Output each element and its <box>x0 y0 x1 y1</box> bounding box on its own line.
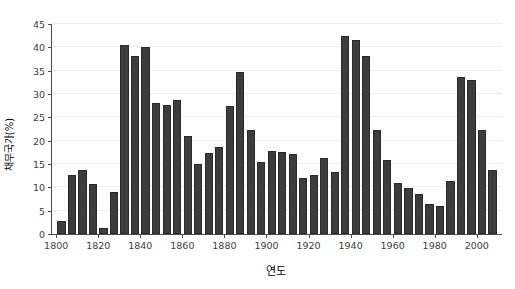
bar <box>352 40 360 234</box>
chart-figure: 채무국가(%) 051015202530354045 1800182018401… <box>0 0 515 289</box>
x-tick-mark <box>435 234 436 238</box>
bar <box>78 170 86 234</box>
y-tick-mark <box>48 164 52 165</box>
bar <box>415 194 423 234</box>
y-tick-mark <box>48 234 52 235</box>
bar <box>120 45 128 234</box>
bar <box>57 221 65 234</box>
bar <box>184 136 192 234</box>
y-tick-label: 40 <box>33 42 45 53</box>
y-tick-label: 45 <box>33 19 45 30</box>
x-tick-label: 1860 <box>170 240 194 251</box>
bar <box>457 77 465 234</box>
bar <box>205 153 213 234</box>
y-axis-title: 채무국가(%) <box>0 0 16 289</box>
bar <box>163 105 171 234</box>
x-tick-mark <box>266 234 267 238</box>
y-tick-label: 10 <box>33 182 45 193</box>
plot-area: 051015202530354045 180018201840186018801… <box>51 24 502 235</box>
x-tick-label: 1940 <box>339 240 363 251</box>
x-tick-mark <box>140 234 141 238</box>
bar <box>467 80 475 234</box>
y-tick-mark <box>48 24 52 25</box>
y-tick-label: 5 <box>39 205 45 216</box>
y-tick-mark <box>48 94 52 95</box>
bar <box>341 36 349 234</box>
bar <box>373 130 381 234</box>
x-tick-label: 1900 <box>254 240 278 251</box>
x-tick-mark <box>98 234 99 238</box>
x-axis-title: 연도 <box>51 262 501 278</box>
bar <box>89 184 97 234</box>
bar <box>478 130 486 234</box>
x-tick-label: 1920 <box>296 240 320 251</box>
x-tick-mark <box>182 234 183 238</box>
gridline <box>52 23 502 24</box>
y-tick-label: 20 <box>33 135 45 146</box>
y-tick-mark <box>48 47 52 48</box>
y-tick-label: 30 <box>33 89 45 100</box>
y-tick-mark <box>48 71 52 72</box>
bar <box>488 170 496 234</box>
x-tick-mark <box>351 234 352 238</box>
bar <box>173 100 181 234</box>
x-tick-mark <box>477 234 478 238</box>
bar <box>320 158 328 234</box>
bar <box>226 106 234 234</box>
x-tick-mark <box>224 234 225 238</box>
bar <box>383 160 391 234</box>
y-tick-mark <box>48 211 52 212</box>
bar <box>310 175 318 234</box>
bar <box>131 56 139 234</box>
bar <box>394 183 402 234</box>
y-tick-label: 15 <box>33 159 45 170</box>
y-tick-mark <box>48 187 52 188</box>
bar <box>141 47 149 234</box>
bar <box>236 72 244 234</box>
bar <box>268 151 276 234</box>
bar <box>110 192 118 234</box>
x-tick-label: 1960 <box>381 240 405 251</box>
bar <box>425 204 433 234</box>
bar <box>362 56 370 234</box>
bar <box>99 228 107 234</box>
y-tick-label: 0 <box>39 229 45 240</box>
bar <box>446 181 454 234</box>
x-tick-label: 1800 <box>44 240 68 251</box>
y-tick-label: 35 <box>33 65 45 76</box>
bar <box>289 154 297 234</box>
bar <box>278 152 286 234</box>
x-tick-label: 1840 <box>128 240 152 251</box>
bar <box>215 147 223 234</box>
x-tick-mark <box>309 234 310 238</box>
x-tick-label: 1820 <box>86 240 110 251</box>
bar <box>194 164 202 234</box>
bar <box>436 206 444 234</box>
bar <box>299 178 307 234</box>
y-tick-mark <box>48 141 52 142</box>
x-tick-label: 1980 <box>423 240 447 251</box>
bar <box>331 172 339 234</box>
x-tick-label: 1880 <box>212 240 236 251</box>
bar <box>68 175 76 234</box>
bar <box>247 130 255 234</box>
x-tick-mark <box>56 234 57 238</box>
x-tick-mark <box>393 234 394 238</box>
y-tick-mark <box>48 117 52 118</box>
bar <box>152 103 160 234</box>
x-tick-label: 2000 <box>465 240 489 251</box>
bar <box>257 162 265 234</box>
y-tick-label: 25 <box>33 112 45 123</box>
bar <box>404 188 412 234</box>
